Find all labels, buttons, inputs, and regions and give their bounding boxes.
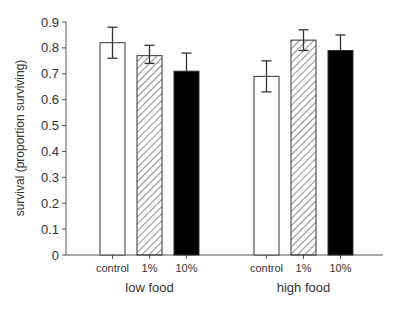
- y-tick-label: 0.2: [41, 196, 59, 211]
- y-tick-label: 0.9: [41, 15, 59, 30]
- group-label: low food: [125, 280, 173, 295]
- bar-low-food-10pct: [174, 71, 199, 255]
- y-tick-label: 0.3: [41, 170, 59, 185]
- x-tick-label: 10%: [329, 262, 351, 274]
- y-tick-label: 0: [52, 248, 59, 263]
- bar-high-food-10pct: [328, 50, 353, 255]
- y-tick-label: 0.7: [41, 66, 59, 81]
- bar-low-food-control: [100, 43, 125, 255]
- x-tick-label: control: [250, 262, 283, 274]
- y-axis-label: survival (proportion surviving): [13, 60, 27, 217]
- x-axis: control1%10%low foodcontrol1%10%high foo…: [66, 255, 383, 295]
- bar-high-food-1pct: [291, 40, 316, 255]
- bar-chart: 00.10.20.30.40.50.60.70.80.9 control1%10…: [0, 0, 402, 310]
- y-tick-label: 0.1: [41, 222, 59, 237]
- x-tick-label: 10%: [175, 262, 197, 274]
- bars: [100, 27, 353, 255]
- y-tick-label: 0.8: [41, 40, 59, 55]
- y-tick-label: 0.6: [41, 92, 59, 107]
- x-tick-label: 1%: [296, 262, 312, 274]
- group-label: high food: [277, 280, 331, 295]
- y-axis: 00.10.20.30.40.50.60.70.80.9: [41, 15, 66, 263]
- x-tick-label: 1%: [142, 262, 158, 274]
- y-tick-label: 0.5: [41, 118, 59, 133]
- x-tick-label: control: [96, 262, 129, 274]
- y-tick-label: 0.4: [41, 144, 59, 159]
- bar-low-food-1pct: [137, 56, 162, 255]
- bar-high-food-control: [254, 76, 279, 255]
